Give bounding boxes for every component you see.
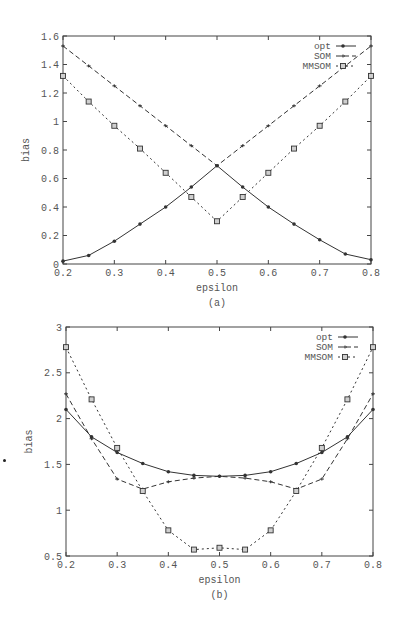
opt-marker-dot: [115, 451, 119, 455]
mmsom-marker-square: [294, 488, 299, 493]
som-marker-plus: [166, 480, 170, 483]
x-axis-label: epsilon: [198, 575, 240, 586]
panel-caption: (a): [208, 298, 226, 309]
mmsom-marker-square: [166, 528, 171, 533]
mmsom-marker-square: [240, 195, 245, 200]
som-marker-plus: [243, 477, 247, 480]
legend: optSOMMMSOM: [302, 41, 356, 72]
mmsom-marker-square: [317, 123, 322, 128]
y-tick-label: 0: [53, 260, 59, 271]
opt-marker-dot: [167, 470, 171, 474]
opt-marker-dot: [241, 185, 245, 189]
som-marker-plus: [192, 477, 196, 480]
series-mmsom: [61, 73, 374, 223]
mmsom-marker-square: [268, 528, 273, 533]
y-tick-label: 1.4: [41, 60, 59, 71]
mmsom-marker-square: [163, 170, 168, 175]
legend: optSOMMMSOM: [304, 332, 358, 363]
opt-marker-dot: [269, 470, 273, 474]
mmsom-marker-square: [191, 547, 196, 552]
x-tick-label: 0.4: [159, 560, 177, 571]
mmsom-marker-square: [140, 488, 145, 493]
y-tick-label: 1.2: [41, 89, 59, 100]
opt-marker-dot: [164, 205, 168, 209]
opt-marker-dot: [294, 462, 298, 466]
legend-som-marker-plus: [343, 346, 347, 349]
legend-opt-marker-dot: [341, 44, 345, 48]
opt-marker-dot: [64, 408, 68, 412]
mmsom-marker-square: [217, 545, 222, 550]
mmsom-marker-square: [319, 445, 324, 450]
opt-marker-dot: [318, 238, 322, 242]
mmsom-marker-square: [112, 123, 117, 128]
mmsom-marker-square: [89, 397, 94, 402]
x-tick-label: 0.6: [262, 560, 280, 571]
panel-caption: (b): [210, 590, 228, 601]
x-tick-label: 0.6: [259, 268, 277, 279]
som-marker-plus: [371, 392, 375, 395]
som-marker-plus: [269, 480, 273, 483]
x-tick-label: 0.7: [313, 560, 331, 571]
mmsom-marker-square: [345, 397, 350, 402]
y-tick-label: 3: [56, 323, 62, 334]
opt-marker-dot: [190, 185, 194, 189]
mmsom-marker-square: [369, 73, 374, 78]
opt-marker-dot: [344, 252, 348, 256]
legend-som-marker-plus: [341, 55, 345, 58]
opt-marker-dot: [87, 254, 91, 258]
opt-marker-dot: [141, 462, 145, 466]
figure: 0.20.30.40.50.60.70.800.20.40.60.811.21.…: [0, 0, 398, 621]
opt-marker-dot: [292, 222, 296, 226]
y-tick-label: 1: [53, 117, 59, 128]
mmsom-marker-square: [343, 99, 348, 104]
y-tick-label: 1.5: [44, 460, 62, 471]
mmsom-marker-square: [61, 73, 66, 78]
mmsom-marker-square: [243, 547, 248, 552]
opt-line: [66, 409, 373, 476]
mmsom-marker-square: [138, 146, 143, 151]
opt-marker-dot: [61, 259, 65, 263]
y-tick-label: 0.8: [41, 146, 59, 157]
x-tick-label: 0.3: [105, 268, 123, 279]
stray-dot-mark: [3, 459, 6, 462]
y-axis-label: bias: [24, 429, 35, 453]
x-axis-label: epsilon: [196, 283, 238, 294]
y-tick-label: 1: [56, 506, 62, 517]
legend-mmsom-marker-square: [343, 355, 348, 360]
y-tick-label: 2.5: [44, 368, 62, 379]
opt-marker-dot: [371, 408, 375, 412]
x-tick-label: 0.3: [108, 560, 126, 571]
y-tick-label: 0.4: [41, 203, 59, 214]
series-opt: [64, 408, 375, 478]
y-tick-label: 0.2: [41, 231, 59, 242]
mmsom-marker-square: [371, 345, 376, 350]
mmsom-marker-square: [86, 99, 91, 104]
mmsom-line: [66, 347, 373, 549]
legend-opt-marker-dot: [343, 335, 347, 339]
opt-line: [63, 166, 371, 261]
x-tick-label: 0.7: [311, 268, 329, 279]
y-tick-label: 0.6: [41, 174, 59, 185]
x-tick-label: 0.8: [362, 268, 380, 279]
series-som: [64, 392, 375, 490]
x-tick-label: 0.5: [210, 560, 228, 571]
chart-panel-a: 0.20.30.40.50.60.70.800.20.40.60.811.21.…: [21, 32, 380, 310]
som-marker-plus: [115, 478, 119, 481]
x-tick-label: 0.4: [157, 268, 175, 279]
legend-label-mmsom: MMSOM: [302, 61, 331, 72]
opt-marker-dot: [138, 222, 142, 226]
som-marker-plus: [64, 392, 68, 395]
mmsom-marker-square: [215, 219, 220, 224]
series-opt: [61, 164, 373, 263]
y-axis-label: bias: [21, 138, 32, 162]
mmsom-marker-square: [64, 345, 69, 350]
chart-panel-b: 0.20.30.40.50.60.70.80.511.522.53epsilon…: [24, 323, 382, 602]
mmsom-marker-square: [292, 146, 297, 151]
mmsom-marker-square: [115, 445, 120, 450]
legend-mmsom-marker-square: [341, 64, 346, 69]
x-tick-label: 0.5: [208, 268, 226, 279]
mmsom-marker-square: [266, 170, 271, 175]
mmsom-marker-square: [189, 195, 194, 200]
y-tick-label: 0.5: [44, 552, 62, 563]
opt-marker-dot: [369, 258, 373, 262]
